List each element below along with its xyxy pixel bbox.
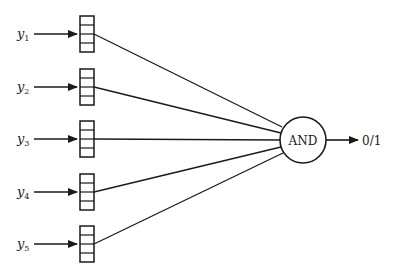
register-box	[80, 121, 94, 157]
output-label: 0/1	[362, 134, 381, 148]
input-row-3: y3	[16, 121, 280, 157]
output: 0/1	[326, 134, 381, 148]
register-box	[80, 69, 94, 105]
input-row-4: y4	[16, 147, 281, 210]
and-gate-diagram: y1 y2 y3 y4	[0, 0, 398, 280]
input-label-y2: y2	[16, 79, 29, 96]
connection-line	[94, 153, 283, 244]
register-box	[80, 16, 94, 52]
connection-line	[94, 34, 282, 127]
input-label-y1: y1	[16, 26, 29, 43]
register-box	[80, 174, 94, 210]
register-box	[80, 226, 94, 262]
connection-line	[94, 147, 281, 192]
input-label-y5: y5	[16, 236, 29, 253]
and-gate: AND	[280, 117, 326, 163]
input-label-y3: y3	[16, 131, 29, 148]
connection-line	[94, 139, 280, 140]
input-row-2: y2	[16, 69, 281, 133]
input-row-1: y1	[16, 16, 282, 127]
input-label-y4: y4	[16, 184, 29, 201]
connection-line	[94, 87, 281, 133]
input-row-5: y5	[16, 153, 283, 262]
gate-label: AND	[288, 134, 318, 148]
